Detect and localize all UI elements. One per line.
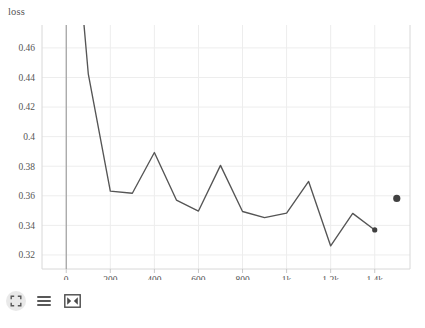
loss-chart-card: loss 0.320.340.360.380.40.420.440.46 020… <box>0 0 425 328</box>
menu-line-1 <box>37 296 51 298</box>
loss-line-chart[interactable]: 0.320.340.360.380.40.420.440.46 02004006… <box>0 18 425 280</box>
menu-lines-glyph <box>37 296 51 306</box>
x-tick-label: 0 <box>64 275 69 280</box>
y-tick-label: 0.44 <box>18 73 35 83</box>
y-tick-label: 0.36 <box>18 191 35 201</box>
y-tick-label: 0.42 <box>18 102 35 112</box>
x-tick-label: 1.2k <box>322 275 339 280</box>
y-tick-label: 0.34 <box>18 221 35 231</box>
chart-toolbar[interactable] <box>6 290 82 312</box>
y-tick-label: 0.38 <box>18 162 35 172</box>
x-tick-label: 400 <box>147 275 162 280</box>
fullscreen-expand-icon[interactable] <box>62 291 82 311</box>
highlight-point[interactable] <box>393 195 400 202</box>
x-tick-label: 1.4k <box>366 275 383 280</box>
y-axis-tick-labels: 0.320.340.360.380.40.420.440.46 <box>18 43 35 260</box>
y-tick-label: 0.32 <box>18 250 35 260</box>
x-axis-tick-labels: 02004006008001k1.2k1.4k <box>64 275 383 280</box>
x-tick-label: 600 <box>191 275 206 280</box>
y-tick-label: 0.46 <box>18 43 35 53</box>
plot-area[interactable]: 0.320.340.360.380.40.420.440.46 02004006… <box>0 18 425 280</box>
page-title: loss <box>8 6 25 17</box>
axis-layer <box>42 25 410 273</box>
x-tick-label: 1k <box>282 275 292 280</box>
x-tick-label: 800 <box>235 275 250 280</box>
grid-layer <box>42 25 410 269</box>
menu-line-2 <box>37 300 51 302</box>
y-tick-label: 0.4 <box>23 132 35 142</box>
current-point[interactable] <box>372 227 377 232</box>
fullscreen-expand-glyph <box>64 294 81 308</box>
zoom-reset-icon[interactable] <box>6 291 26 311</box>
marker-layer <box>372 195 400 233</box>
menu-line-3 <box>37 304 51 306</box>
x-tick-label: 200 <box>103 275 118 280</box>
zoom-reset-glyph <box>10 295 22 307</box>
menu-lines-icon[interactable] <box>34 291 54 311</box>
